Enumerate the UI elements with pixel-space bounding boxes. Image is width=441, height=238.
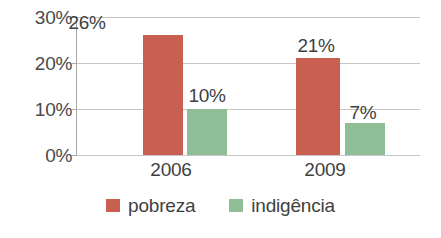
x-axis-label-2009: 2009 [287,160,363,179]
bar-indigencia-2006 [187,109,227,155]
y-axis-tickmark [71,155,76,156]
y-axis-line [76,17,77,156]
y-axis-tickmark [71,109,76,110]
data-label-pobreza-2006: 26% [62,13,112,32]
chart-legend: pobreza indigência [0,196,441,215]
data-label-pobreza-2009: 21% [291,36,341,55]
legend-swatch-icon-indigencia [229,199,243,212]
plot-area [76,17,420,155]
x-axis-label-2006: 2006 [133,160,209,179]
y-axis-tick-label: 0% [8,146,72,165]
y-axis-tick-label: 10% [8,100,72,119]
legend-item-indigencia[interactable]: indigência [229,196,335,215]
gridline-20 [76,63,420,64]
data-label-indigencia-2006: 10% [182,86,232,105]
y-axis-tick-label: 20% [8,54,72,73]
bar-indigencia-2009 [345,123,385,155]
legend-label-indigencia: indigência [251,196,335,215]
gridline-0 [76,155,420,156]
bar-chart: 30% 20% 10% 0% 26% 10% 21% 7% 2006 2009 … [0,0,441,238]
legend-label-pobreza: pobreza [128,196,195,215]
legend-swatch-icon-pobreza [106,199,120,212]
legend-item-pobreza[interactable]: pobreza [106,196,195,215]
y-axis-tickmark [71,63,76,64]
gridline-30 [76,17,420,18]
bar-pobreza-2006 [143,35,183,155]
bar-pobreza-2009 [296,58,340,155]
data-label-indigencia-2009: 7% [341,103,385,122]
